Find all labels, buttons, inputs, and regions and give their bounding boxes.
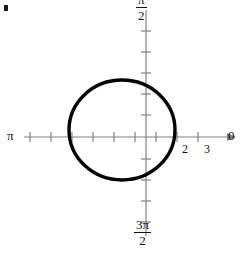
axis-label-zero-right: 0 xyxy=(228,129,235,142)
fraction-numerator: 3π xyxy=(134,218,151,231)
polar-plot-canvas xyxy=(0,0,249,263)
axis-label-3pi-over-2-bottom: 3π 2 xyxy=(134,218,151,248)
fraction-3pi-over-2: 3π 2 xyxy=(134,218,151,248)
axes-group xyxy=(24,10,236,236)
axis-label-pi-over-2-top: π 2 xyxy=(136,0,147,23)
polar-plot-figure: π 0 2 3 π 2 3π 2 xyxy=(0,0,249,263)
fraction-denominator: 2 xyxy=(134,234,151,247)
axis-label-pi-left: π xyxy=(7,129,14,142)
fraction-numerator: π xyxy=(136,0,147,6)
polar-curve-circle xyxy=(69,80,175,180)
fraction-pi-over-2: π 2 xyxy=(136,0,147,23)
fraction-denominator: 2 xyxy=(136,9,147,22)
x-tick-label-3: 3 xyxy=(204,143,210,155)
x-tick-label-2: 2 xyxy=(182,143,188,155)
